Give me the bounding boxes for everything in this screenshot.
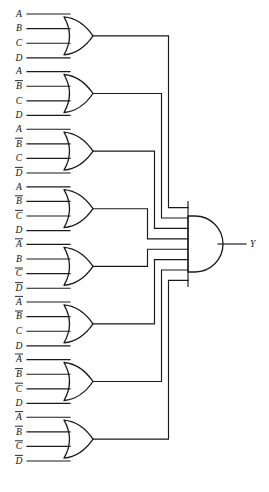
input-label-c: C [16,383,23,394]
input-label-b: B [16,368,22,379]
or-output-wire [93,249,188,266]
or-gate-shape [64,75,93,113]
output-label-y: Y [250,238,257,249]
logic-circuit-diagram: ABCDABCDABCDABCDABCDABCDABCDABCDY [0,0,269,492]
gates-layer [64,17,223,458]
or-gate-shape [64,420,93,458]
input-label-b: B [16,195,22,206]
input-label-b: B [16,80,22,91]
or-output-wire [93,260,188,324]
input-label-c: C [16,267,23,278]
input-label-a: A [15,238,22,249]
input-label-a: A [15,411,22,422]
input-label-a: A [15,65,22,76]
input-label-b: B [16,22,22,33]
input-label-d: D [15,109,23,120]
or-output-wire [93,270,188,382]
input-label-b: B [16,253,22,264]
or-gate-shape [64,132,93,170]
input-label-a: A [15,296,22,307]
input-label-c: C [16,440,23,451]
or-gate-shape [64,247,93,285]
input-label-d: D [15,397,23,408]
input-label-d: D [15,167,23,178]
input-label-a: A [15,8,22,19]
or-output-wire [93,94,188,219]
input-label-c: C [16,210,23,221]
input-label-a: A [15,181,22,192]
or-output-wire [93,209,188,239]
input-label-c: C [16,325,23,336]
input-label-b: B [16,310,22,321]
or-output-wire [93,36,188,208]
input-label-a: A [15,353,22,364]
input-label-d: D [15,455,23,466]
input-label-d: D [15,282,23,293]
or-gate-shape [64,17,93,55]
input-label-b: B [16,138,22,149]
input-label-c: C [16,152,23,163]
or-gate-shape [64,305,93,343]
input-label-d: D [15,52,23,63]
input-label-d: D [15,224,23,235]
input-label-a: A [15,123,22,134]
or-output-wire [93,151,188,228]
or-output-wire [93,280,188,439]
input-label-d: D [15,340,23,351]
or-gate-shape [64,363,93,401]
input-label-c: C [16,95,23,106]
or-gate-shape [64,190,93,228]
input-label-b: B [16,426,22,437]
input-label-c: C [16,37,23,48]
circuit-canvas: ABCDABCDABCDABCDABCDABCDABCDABCDY [0,0,269,492]
